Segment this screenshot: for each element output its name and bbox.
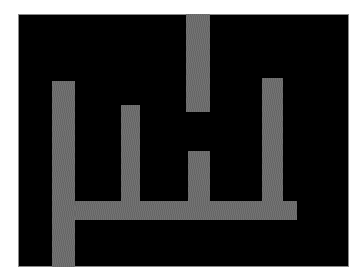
second-vertical-bar (121, 105, 140, 201)
third-vertical-bar (188, 151, 210, 201)
right-vertical-bar (262, 78, 283, 201)
left-vertical-bar (52, 81, 75, 267)
horizontal-bar (75, 201, 297, 220)
figure-canvas (0, 0, 363, 280)
top-hanging-bar (186, 14, 210, 112)
